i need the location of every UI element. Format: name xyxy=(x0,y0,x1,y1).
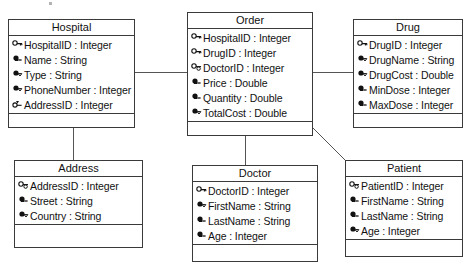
attribute-text: LastName : String xyxy=(208,215,290,227)
attribute-row: DrugID : Integer xyxy=(188,45,312,60)
lock-icon xyxy=(191,77,202,88)
class-title-patient: Patient xyxy=(346,161,462,177)
class-title-address: Address xyxy=(15,161,142,177)
attribute-row: LastName : String xyxy=(346,208,462,223)
class-attributes-doctor: DoctorID : Integer FirstName : String La… xyxy=(193,182,317,245)
attribute-text: DoctorID : Integer xyxy=(203,62,284,74)
lock-icon xyxy=(349,225,360,236)
attribute-row: AddressID : Integer xyxy=(9,97,134,112)
attribute-text: HospitalID : Integer xyxy=(203,32,291,44)
lock-icon xyxy=(196,215,207,226)
attribute-text: DrugID : Integer xyxy=(203,47,276,59)
attribute-text: AddressID : Integer xyxy=(24,99,113,111)
lock-icon xyxy=(357,69,368,80)
key-icon xyxy=(191,47,202,58)
lock-icon xyxy=(18,195,29,206)
key-icon xyxy=(12,99,23,110)
attribute-row: Street : String xyxy=(15,193,142,208)
class-title-order: Order xyxy=(188,13,312,29)
uml-class-patient[interactable]: Patient PatientID : Integer FirstName : … xyxy=(345,160,463,257)
attribute-text: Name : String xyxy=(24,54,87,66)
attribute-row: HospitalID : Integer xyxy=(188,30,312,45)
attribute-text: Quantity : Double xyxy=(203,92,282,104)
uml-class-order[interactable]: Order HospitalID : Integer DrugID : Inte… xyxy=(187,12,313,136)
attribute-row: FirstName : String xyxy=(346,193,462,208)
attribute-text: Street : String xyxy=(30,195,93,207)
association-hospital-address-vertical xyxy=(73,128,74,160)
class-methods-address xyxy=(15,225,142,247)
attribute-text: DrugCost : Double xyxy=(369,69,454,81)
attribute-row: Age : Integer xyxy=(346,223,462,238)
class-methods-hospital xyxy=(9,114,134,127)
attribute-text: FirstName : String xyxy=(208,200,291,212)
key-icon xyxy=(349,180,360,191)
key-icon xyxy=(191,62,202,73)
lock-icon xyxy=(196,230,207,241)
attribute-row: DoctorID : Integer xyxy=(193,183,317,198)
class-attributes-order: HospitalID : Integer DrugID : Integer Do… xyxy=(188,29,312,122)
scan-artifact xyxy=(49,2,52,5)
attribute-text: HospitalID : Integer xyxy=(24,39,112,51)
attribute-row: MaxDose : Integer xyxy=(354,97,462,112)
class-attributes-hospital: HospitalID : Integer Name : String Type … xyxy=(9,36,134,114)
attribute-row: TotalCost : Double xyxy=(188,105,312,120)
attribute-row: DrugCost : Double xyxy=(354,67,462,82)
attribute-text: Price : Double xyxy=(203,77,268,89)
attribute-row: Quantity : Double xyxy=(188,90,312,105)
class-title-hospital: Hospital xyxy=(9,20,134,36)
attribute-text: DrugName : String xyxy=(369,54,454,66)
attribute-text: TotalCost : Double xyxy=(203,107,287,119)
uml-class-address[interactable]: Address AddressID : Integer Street : Str… xyxy=(14,160,143,248)
attribute-row: Age : Integer xyxy=(193,228,317,243)
attribute-row: PhoneNumber : Integer xyxy=(9,82,134,97)
attribute-text: DoctorID : Integer xyxy=(208,185,289,197)
attribute-row: FirstName : String xyxy=(193,198,317,213)
class-methods-order xyxy=(188,122,312,135)
key-icon xyxy=(12,39,23,50)
uml-class-hospital[interactable]: Hospital HospitalID : Integer Name : Str… xyxy=(8,19,135,128)
attribute-row: AddressID : Integer xyxy=(15,178,142,193)
attribute-row: HospitalID : Integer xyxy=(9,37,134,52)
attribute-row: Name : String xyxy=(9,52,134,67)
attribute-text: MaxDose : Integer xyxy=(369,99,453,111)
attribute-row: PatientID : Integer xyxy=(346,178,462,193)
key-icon xyxy=(191,32,202,43)
attribute-row: Type : String xyxy=(9,67,134,82)
attribute-text: AddressID : Integer xyxy=(30,180,119,192)
association-order-drug xyxy=(313,72,353,73)
lock-icon xyxy=(349,210,360,221)
attribute-row: DrugName : String xyxy=(354,52,462,67)
class-attributes-address: AddressID : Integer Street : String Coun… xyxy=(15,177,142,225)
class-title-doctor: Doctor xyxy=(193,166,317,182)
association-order-doctor-vertical xyxy=(245,136,246,165)
attribute-text: Country : String xyxy=(30,210,101,222)
key-icon xyxy=(18,180,29,191)
attribute-row: LastName : String xyxy=(193,213,317,228)
class-attributes-patient: PatientID : Integer FirstName : String L… xyxy=(346,177,462,240)
lock-icon xyxy=(12,54,23,65)
lock-icon xyxy=(191,107,202,118)
attribute-row: Country : String xyxy=(15,208,142,223)
attribute-text: PhoneNumber : Integer xyxy=(24,84,131,96)
attribute-row: Price : Double xyxy=(188,75,312,90)
attribute-text: Age : Integer xyxy=(361,225,420,237)
attribute-text: Type : String xyxy=(24,69,82,81)
lock-icon xyxy=(349,195,360,206)
attribute-row: MinDose : Integer xyxy=(354,82,462,97)
lock-icon xyxy=(357,99,368,110)
association-hospital-order xyxy=(135,72,187,73)
attribute-text: LastName : String xyxy=(361,210,443,222)
key-icon xyxy=(357,39,368,50)
attribute-row: DrugID : Integer xyxy=(354,37,462,52)
attribute-text: Age : Integer xyxy=(208,230,267,242)
uml-class-doctor[interactable]: Doctor DoctorID : Integer FirstName : St… xyxy=(192,165,318,262)
attribute-text: FirstName : String xyxy=(361,195,444,207)
uml-class-drug[interactable]: Drug DrugID : Integer DrugName : String … xyxy=(353,19,463,128)
class-attributes-drug: DrugID : Integer DrugName : String DrugC… xyxy=(354,36,462,114)
lock-icon xyxy=(357,84,368,95)
lock-icon xyxy=(191,92,202,103)
lock-icon xyxy=(12,84,23,95)
lock-icon xyxy=(18,210,29,221)
class-methods-doctor xyxy=(193,245,317,261)
